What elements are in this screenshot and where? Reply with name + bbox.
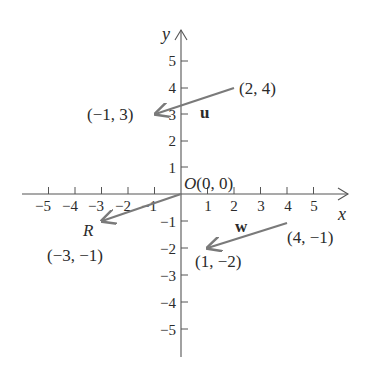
- y-tick-label: −1: [160, 214, 176, 230]
- x-tick-label: 3: [257, 198, 265, 214]
- y-tick-label: 5: [169, 53, 177, 69]
- y-tick-label: −2: [160, 241, 176, 257]
- vector-w-label: w: [235, 217, 248, 236]
- vector-w-start-label: (4, −1): [287, 228, 333, 247]
- vector-u-start-label: (2, 4): [239, 79, 276, 98]
- x-tick-labels: −5 −4 −3 −2 −1 1 2 3 4 5: [35, 198, 318, 214]
- y-tick-label: −4: [160, 295, 176, 311]
- vector-w: w (4, −1) (1, −2): [195, 217, 333, 271]
- y-tick-label: 1: [169, 160, 177, 176]
- x-tick-label: 5: [310, 198, 318, 214]
- origin-label: O(0, 0): [184, 174, 233, 193]
- x-tick-label: −5: [35, 198, 51, 214]
- vector-w-end-label: (1, −2): [195, 252, 241, 271]
- x-tick-label: −3: [88, 198, 104, 214]
- vector-u-end-label: (−1, 3): [87, 105, 133, 124]
- y-tick-label: 2: [169, 133, 177, 149]
- vector-u-label: u: [200, 103, 209, 122]
- x-tick-label: 2: [230, 198, 238, 214]
- y-ticks: [181, 61, 188, 329]
- x-tick-label: 1: [204, 198, 212, 214]
- y-axis-label: y: [160, 24, 170, 44]
- vector-r-label: R: [82, 221, 94, 240]
- y-tick-label: 4: [169, 80, 177, 96]
- x-tick-label: 4: [284, 198, 292, 214]
- y-tick-label: −5: [160, 322, 176, 338]
- coordinate-plane: x y −5 −4 −3 −2 −1 1 2 3 4 5: [0, 0, 379, 373]
- vector-u-arrow-icon: [156, 88, 235, 114]
- vector-r-end-label: (−3, −1): [47, 246, 103, 265]
- x-axis-label: x: [337, 204, 346, 224]
- y-tick-label: −3: [160, 268, 176, 284]
- x-tick-label: −4: [62, 198, 78, 214]
